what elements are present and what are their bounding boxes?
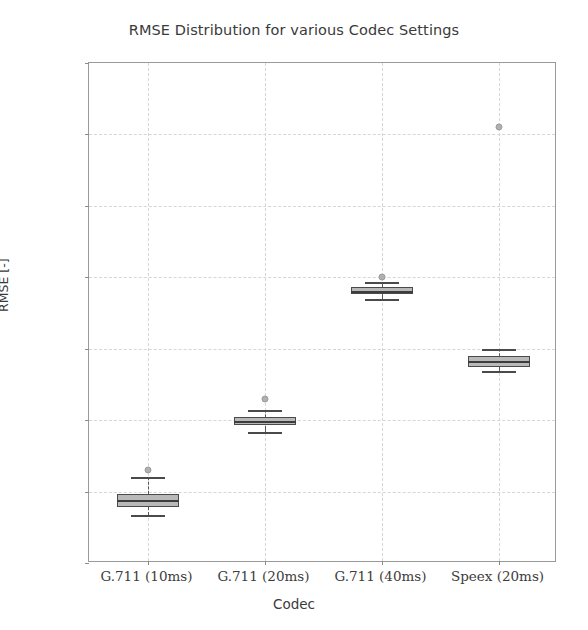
y-gridline (89, 277, 555, 278)
x-axis-label: Codec (0, 596, 588, 612)
x-tick-mark (148, 561, 149, 565)
x-gridline (265, 63, 266, 561)
y-tick-mark (85, 492, 89, 493)
whisker-cap (365, 282, 399, 284)
whisker-cap (248, 410, 282, 412)
plot-area (88, 62, 556, 562)
y-tick-mark (85, 134, 89, 135)
chart-title: RMSE Distribution for various Codec Sett… (0, 22, 588, 38)
median-line (117, 500, 179, 502)
x-tick-mark (265, 561, 266, 565)
whisker-cap (482, 371, 516, 373)
y-tick-mark (85, 420, 89, 421)
x-gridline (382, 63, 383, 561)
y-tick-mark (85, 206, 89, 207)
whisker-cap (482, 349, 516, 351)
whisker-cap (248, 432, 282, 434)
x-gridline (499, 63, 500, 561)
whisker-line (148, 477, 149, 494)
median-line (468, 361, 530, 363)
median-line (234, 421, 296, 423)
chart-figure: RMSE Distribution for various Codec Sett… (0, 0, 588, 630)
y-tick-mark (85, 563, 89, 564)
y-gridline (89, 206, 555, 207)
whisker-cap (131, 515, 165, 517)
whisker-cap (131, 477, 165, 479)
y-gridline (89, 492, 555, 493)
whisker-line (148, 507, 149, 515)
y-tick-mark (85, 349, 89, 350)
x-tick-mark (499, 561, 500, 565)
y-gridline (89, 420, 555, 421)
median-line (351, 291, 413, 293)
y-axis-label: RMSE [-] (0, 258, 11, 312)
y-gridline (89, 134, 555, 135)
outlier-point (495, 124, 502, 131)
y-tick-mark (85, 63, 89, 64)
x-tick-mark (382, 561, 383, 565)
outlier-point (378, 274, 385, 281)
whisker-cap (365, 299, 399, 301)
outlier-point (144, 467, 151, 474)
x-tick-label: Speex (20ms) (423, 568, 573, 584)
outlier-point (261, 395, 268, 402)
y-tick-mark (85, 277, 89, 278)
